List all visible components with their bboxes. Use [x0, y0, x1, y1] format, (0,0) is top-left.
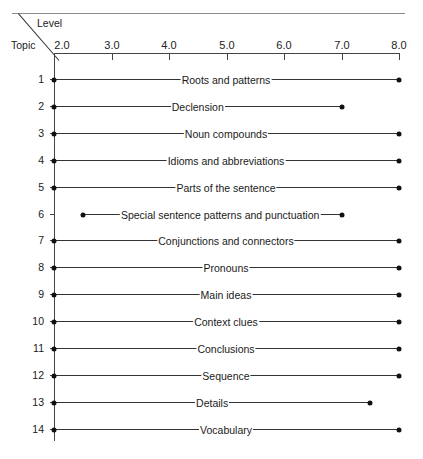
end-dot: [397, 265, 402, 270]
row-tick: [50, 214, 54, 215]
start-dot: [52, 158, 57, 163]
end-dot: [368, 400, 373, 405]
end-dot: [339, 212, 344, 217]
x-tick: [169, 53, 170, 60]
topic-label: Vocabulary: [199, 424, 253, 436]
start-dot: [52, 185, 57, 190]
end-dot: [339, 104, 344, 109]
x-tick: [342, 53, 343, 60]
topic-number: 14: [14, 423, 44, 435]
topic-number: 13: [14, 396, 44, 408]
end-dot: [397, 158, 402, 163]
end-dot: [397, 319, 402, 324]
end-dot: [397, 292, 402, 297]
topic-label: Roots and patterns: [181, 74, 272, 86]
x-tick-label: 7.0: [334, 39, 349, 51]
topic-number: 9: [14, 288, 44, 300]
end-dot: [397, 77, 402, 82]
end-dot: [397, 185, 402, 190]
topic-label: Parts of the sentence: [175, 182, 276, 194]
topic-number: 10: [14, 315, 44, 327]
topic-number: 3: [14, 127, 44, 139]
x-tick: [399, 53, 400, 60]
start-dot: [52, 373, 57, 378]
start-dot: [52, 238, 57, 243]
start-dot: [52, 104, 57, 109]
topic-label: Declension: [171, 101, 225, 113]
topic-label: Noun compounds: [184, 128, 268, 140]
y-axis: [54, 53, 55, 441]
start-dot: [52, 131, 57, 136]
end-dot: [397, 427, 402, 432]
topic-number: 8: [14, 261, 44, 273]
topic-label: Sequence: [201, 370, 250, 382]
x-tick-label: 3.0: [104, 39, 119, 51]
topic-header: Topic: [11, 39, 36, 51]
topic-label: Special sentence patterns and punctuatio…: [120, 209, 320, 221]
topic-label: Idioms and abbreviations: [167, 155, 286, 167]
start-dot: [52, 292, 57, 297]
start-dot: [80, 212, 85, 217]
topic-label: Pronouns: [203, 262, 250, 274]
topic-number: 7: [14, 234, 44, 246]
end-dot: [397, 373, 402, 378]
x-tick-label: 8.0: [391, 39, 406, 51]
x-tick: [227, 53, 228, 60]
top-rule: [12, 13, 405, 14]
topic-label: Context clues: [193, 316, 259, 328]
x-tick: [284, 53, 285, 60]
start-dot: [52, 400, 57, 405]
topic-number: 5: [14, 181, 44, 193]
topic-label: Details: [195, 397, 229, 409]
topic-label: Conjunctions and connectors: [157, 235, 294, 247]
topic-number: 2: [14, 100, 44, 112]
topic-label: Main ideas: [200, 289, 253, 301]
x-tick-label: 6.0: [276, 39, 291, 51]
topic-number: 6: [14, 208, 44, 220]
end-dot: [397, 346, 402, 351]
x-tick-label: 5.0: [219, 39, 234, 51]
topic-number: 12: [14, 369, 44, 381]
x-tick-label: 4.0: [161, 39, 176, 51]
x-tick-label: 2.0: [54, 39, 69, 51]
start-dot: [52, 346, 57, 351]
start-dot: [52, 427, 57, 432]
topic-number: 4: [14, 154, 44, 166]
x-tick: [112, 53, 113, 60]
level-header: Level: [37, 17, 62, 29]
topic-number: 11: [14, 342, 44, 354]
start-dot: [52, 265, 57, 270]
topic-label: Conclusions: [196, 343, 255, 355]
start-dot: [52, 77, 57, 82]
topic-number: 1: [14, 73, 44, 85]
end-dot: [397, 131, 402, 136]
end-dot: [397, 238, 402, 243]
start-dot: [52, 319, 57, 324]
